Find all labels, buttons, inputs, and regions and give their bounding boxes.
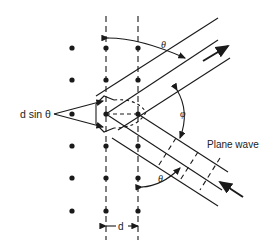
theta-bottom-label: θ — [158, 173, 163, 184]
outgoing-direction-arrow — [203, 46, 228, 61]
spacing-label: d — [118, 221, 124, 232]
incident-direction-arrow — [220, 182, 243, 197]
path-difference-label: d sin θ — [20, 108, 51, 120]
phi-label: φ — [180, 108, 186, 119]
theta-top-label: θ — [161, 39, 166, 50]
plane-wave-label: Plane wave — [207, 139, 259, 150]
diffraction-diagram: d sin θ θ φ θ Plane wave d — [0, 0, 268, 252]
incident-beam — [106, 114, 228, 206]
theta-top-arc — [108, 38, 185, 58]
diffracted-beam — [96, 18, 230, 130]
